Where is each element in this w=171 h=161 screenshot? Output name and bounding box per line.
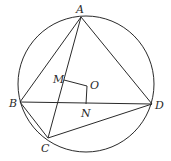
label-o: O bbox=[90, 79, 99, 92]
label-c: C bbox=[41, 142, 50, 155]
circumcircle bbox=[18, 16, 154, 152]
geometry-diagram: A B C D M O N bbox=[0, 0, 171, 161]
label-n: N bbox=[80, 107, 91, 120]
segment-mo bbox=[64, 80, 87, 86]
segment-cd bbox=[48, 104, 152, 138]
label-d: D bbox=[154, 99, 164, 112]
label-m: M bbox=[52, 73, 65, 86]
segment-bc bbox=[20, 102, 48, 138]
segment-ab bbox=[20, 17, 81, 102]
label-b: B bbox=[8, 97, 17, 110]
segment-on bbox=[86, 86, 87, 104]
label-a: A bbox=[75, 3, 84, 16]
